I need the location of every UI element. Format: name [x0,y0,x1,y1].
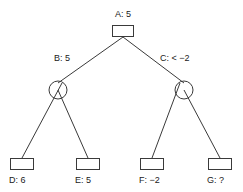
edge-b-e [58,90,88,158]
node-a-square [113,26,134,37]
node-label-d: D: 6 [9,175,26,186]
edge-c-g [184,90,220,158]
node-label-e: E: 5 [75,175,91,186]
node-label-f: F: −2 [139,175,160,186]
node-label-c: C: < −2 [160,53,190,64]
node-g-square [209,159,232,170]
node-f-square [141,159,164,170]
node-label-a: A: 5 [115,9,131,20]
node-label-b: B: 5 [54,53,70,64]
tree-graphics [0,0,243,192]
game-tree-diagram: A: 5 B: 5 C: < −2 D: 6 E: 5 F: −2 G: ? [0,0,243,192]
node-label-g: G: ? [207,175,224,186]
node-d-square [11,159,34,170]
edge-b-d [22,83,62,158]
node-e-square [77,159,100,170]
